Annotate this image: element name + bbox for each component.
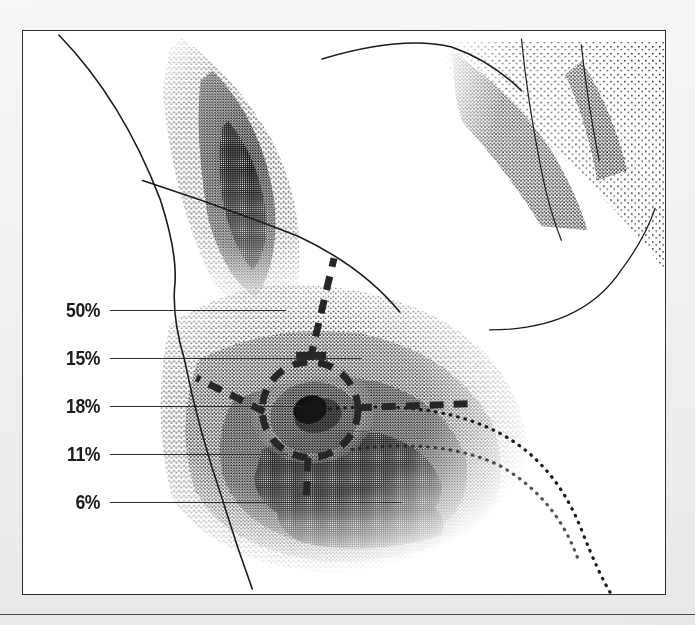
callout-11-leader-line xyxy=(110,454,288,455)
callout-11-label: 11% xyxy=(54,444,100,464)
callout-11[interactable]: 11% xyxy=(48,441,288,467)
callout-18[interactable]: 18% xyxy=(48,393,302,419)
callout-18-leader-line xyxy=(110,406,302,407)
callout-15-leader-line xyxy=(110,358,362,359)
callout-15[interactable]: 15% xyxy=(48,345,362,371)
callout-18-label: 18% xyxy=(54,396,100,416)
callout-6-label: 6% xyxy=(54,492,100,512)
bottom-rule xyxy=(0,614,695,615)
callout-50[interactable]: 50% xyxy=(48,297,286,323)
callout-50-leader-line xyxy=(110,310,286,311)
figure-root: 50% 15% 18% 11% 6% xyxy=(0,0,695,625)
callout-50-label: 50% xyxy=(54,300,100,320)
callout-6-leader-line xyxy=(110,502,402,503)
callout-15-label: 15% xyxy=(54,348,100,368)
callout-6[interactable]: 6% xyxy=(48,489,402,515)
